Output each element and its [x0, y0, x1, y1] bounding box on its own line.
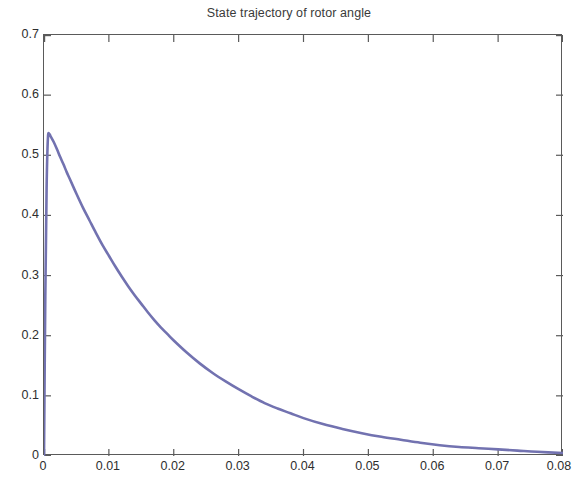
y-tick-label: 0.7 [1, 27, 39, 41]
tick-marks [44, 35, 563, 456]
chart-title: State trajectory of rotor angle [0, 6, 578, 20]
x-tick-label: 0.02 [143, 459, 203, 473]
plot-area [43, 34, 562, 455]
data-plot [44, 35, 563, 456]
x-tick-label: 0.08 [529, 459, 578, 473]
x-tick-label: 0.07 [467, 459, 527, 473]
series-line-rotor-angle [44, 133, 563, 456]
y-tick-label: 0.4 [1, 207, 39, 221]
y-tick-label: 0.6 [1, 87, 39, 101]
x-tick-label: 0.06 [402, 459, 462, 473]
figure-canvas: State trajectory of rotor angle 0.7 0.6 … [0, 0, 578, 487]
y-tick-label: 0.3 [1, 268, 39, 282]
x-axis-labels: 0 0.01 0.02 0.03 0.04 0.05 0.06 0.07 0.0… [43, 459, 562, 481]
x-tick-label: 0.04 [273, 459, 333, 473]
x-tick-label: 0 [13, 459, 73, 473]
x-tick-label: 0.05 [337, 459, 397, 473]
x-tick-label: 0.03 [208, 459, 268, 473]
y-tick-label: 0.5 [1, 147, 39, 161]
y-axis-labels: 0.7 0.6 0.5 0.4 0.3 0.2 0.1 0 [0, 34, 39, 455]
x-tick-label: 0.01 [78, 459, 138, 473]
y-tick-label: 0.2 [1, 328, 39, 342]
y-tick-label: 0.1 [1, 388, 39, 402]
